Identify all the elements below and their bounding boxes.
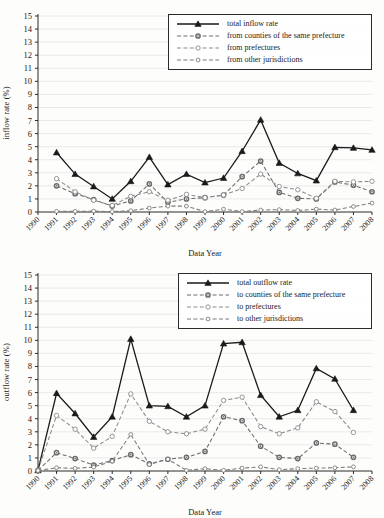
x-tick-label: 2008 bbox=[358, 474, 376, 492]
legend-label: to other jurisdictions bbox=[233, 313, 303, 325]
figure-container: 0123456789101112131415199019911992199319… bbox=[0, 0, 384, 518]
y-tick-label: 3 bbox=[28, 427, 32, 437]
inflow-rate-chart: 0123456789101112131415199019911992199319… bbox=[0, 0, 384, 259]
y-tick-label: 8 bbox=[28, 102, 32, 112]
x-tick-label: 1991 bbox=[42, 474, 60, 492]
y-tick-label: 14 bbox=[24, 24, 33, 34]
legend-label: to counties of the same prefecture bbox=[233, 289, 345, 301]
y-tick-label: 9 bbox=[28, 348, 32, 358]
y-tick-label: 6 bbox=[28, 129, 32, 139]
legend-item[interactable]: to prefectures bbox=[183, 301, 367, 313]
x-tick-label: 1996 bbox=[135, 474, 153, 492]
x-tick-label: 1990 bbox=[24, 215, 42, 233]
legend-item[interactable]: from other jurisdictions bbox=[173, 54, 367, 66]
y-tick-label: 14 bbox=[24, 283, 33, 293]
y-axis-title-outflow: outflow rate (%) bbox=[1, 342, 11, 402]
legend-label: total inflow rate bbox=[223, 18, 278, 30]
x-tick-label: 1997 bbox=[154, 474, 172, 492]
x-tick-label: 1999 bbox=[191, 215, 209, 233]
x-tick-label: 1992 bbox=[61, 215, 79, 233]
y-tick-label: 6 bbox=[28, 388, 32, 398]
legend-outflow: total outflow rateto counties of the sam… bbox=[178, 273, 372, 329]
x-tick-label: 1996 bbox=[135, 215, 153, 233]
y-tick-label: 10 bbox=[24, 335, 33, 345]
legend-label: to prefectures bbox=[233, 301, 281, 313]
x-tick-label: 1992 bbox=[61, 474, 79, 492]
x-tick-label: 2001 bbox=[228, 215, 246, 233]
legend-marker-circle-filled-icon bbox=[183, 289, 233, 301]
x-tick-label: 1999 bbox=[191, 474, 209, 492]
legend-marker-circle-open-small-icon bbox=[183, 313, 233, 325]
legend-item[interactable]: to other jurisdictions bbox=[183, 313, 367, 325]
legend-marker-triangle-icon bbox=[173, 18, 223, 30]
legend-label: total outflow rate bbox=[233, 277, 292, 289]
y-tick-label: 12 bbox=[24, 50, 33, 60]
x-tick-label: 2000 bbox=[209, 215, 227, 233]
x-tick-label: 2008 bbox=[358, 215, 376, 233]
x-tick-label: 1991 bbox=[42, 215, 60, 233]
series-to-counties-of-the-same-prefecture bbox=[36, 415, 356, 473]
legend-label: from other jurisdictions bbox=[223, 54, 303, 66]
y-tick-label: 0 bbox=[28, 466, 32, 476]
y-tick-label: 11 bbox=[24, 322, 32, 332]
y-tick-label: 13 bbox=[24, 37, 33, 47]
y-tick-label: 11 bbox=[24, 63, 32, 73]
x-tick-label: 2004 bbox=[284, 474, 302, 492]
legend-marker-triangle-icon bbox=[183, 277, 233, 289]
series-total-inflow-rate bbox=[53, 117, 375, 202]
y-tick-label: 4 bbox=[28, 414, 33, 424]
y-tick-label: 15 bbox=[24, 11, 33, 21]
legend-label: from prefectures bbox=[223, 42, 280, 54]
legend-marker-circle-filled-icon bbox=[173, 30, 223, 42]
x-tick-label: 2004 bbox=[284, 215, 302, 233]
x-tick-label: 2007 bbox=[339, 474, 357, 492]
x-tick-label: 1995 bbox=[117, 474, 135, 492]
x-tick-label: 2006 bbox=[321, 474, 339, 492]
legend-item[interactable]: from prefectures bbox=[173, 42, 367, 54]
x-tick-label: 2005 bbox=[302, 474, 320, 492]
legend-inflow: total inflow ratefrom counties of the sa… bbox=[168, 14, 372, 70]
x-tick-label: 1993 bbox=[79, 474, 97, 492]
legend-item[interactable]: total inflow rate bbox=[173, 18, 367, 30]
legend-marker-circle-open-icon bbox=[183, 301, 233, 313]
x-tick-label: 2007 bbox=[339, 215, 357, 233]
y-tick-label: 5 bbox=[28, 142, 32, 152]
y-tick-label: 3 bbox=[28, 168, 32, 178]
x-axis-title-inflow: Data Year bbox=[165, 248, 245, 258]
y-tick-label: 12 bbox=[24, 309, 33, 319]
x-tick-label: 2002 bbox=[246, 474, 264, 492]
legend-marker-circle-open-icon bbox=[173, 42, 223, 54]
series-to-other-jurisdictions bbox=[36, 433, 355, 473]
outflow-rate-chart: 0123456789101112131415199019911992199319… bbox=[0, 259, 384, 518]
y-tick-label: 10 bbox=[24, 76, 33, 86]
y-tick-label: 0 bbox=[28, 207, 32, 217]
y-tick-label: 9 bbox=[28, 89, 32, 99]
x-tick-label: 1994 bbox=[98, 215, 116, 233]
x-tick-label: 2000 bbox=[209, 474, 227, 492]
legend-marker-circle-open-small-icon bbox=[173, 54, 223, 66]
x-tick-label: 1998 bbox=[172, 215, 190, 233]
legend-item[interactable]: from counties of the same prefecture bbox=[173, 30, 367, 42]
legend-item[interactable]: to counties of the same prefecture bbox=[183, 289, 367, 301]
y-tick-label: 2 bbox=[28, 181, 32, 191]
series-from-counties-of-the-same-prefecture bbox=[54, 159, 374, 208]
y-axis-title-inflow: inflow rate (%) bbox=[1, 83, 11, 143]
legend-item[interactable]: total outflow rate bbox=[183, 277, 367, 289]
series-from-prefectures bbox=[54, 172, 374, 208]
series-total-outflow-rate bbox=[35, 336, 357, 473]
y-tick-label: 4 bbox=[28, 155, 33, 165]
x-tick-label: 2005 bbox=[302, 215, 320, 233]
y-tick-label: 1 bbox=[28, 453, 32, 463]
y-tick-label: 7 bbox=[28, 116, 32, 126]
y-tick-label: 7 bbox=[28, 375, 32, 385]
x-tick-label: 2001 bbox=[228, 474, 246, 492]
x-tick-label: 2003 bbox=[265, 474, 283, 492]
y-tick-label: 5 bbox=[28, 401, 32, 411]
y-tick-label: 1 bbox=[28, 194, 32, 204]
x-tick-label: 1990 bbox=[24, 474, 42, 492]
y-tick-label: 2 bbox=[28, 440, 32, 450]
x-tick-label: 1995 bbox=[117, 215, 135, 233]
y-tick-label: 13 bbox=[24, 296, 33, 306]
x-axis-title-outflow: Data Year bbox=[165, 507, 245, 517]
x-tick-label: 2003 bbox=[265, 215, 283, 233]
